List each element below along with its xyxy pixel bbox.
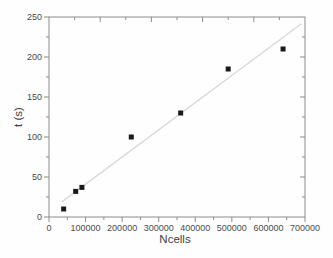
x-tick-label: 300000 xyxy=(144,223,174,233)
x-tick-label: 700000 xyxy=(290,223,320,233)
plot-layer: 0100000200000300000400000500000600000700… xyxy=(27,12,320,233)
y-axis-label: t (s) xyxy=(12,107,24,127)
data-point xyxy=(61,207,66,212)
y-tick-label: 100 xyxy=(27,132,42,142)
data-point xyxy=(129,135,134,140)
x-tick-label: 400000 xyxy=(180,223,210,233)
y-tick-label: 200 xyxy=(27,52,42,62)
scatter-plot: 0100000200000300000400000500000600000700… xyxy=(0,0,333,258)
x-tick-label: 500000 xyxy=(217,223,247,233)
x-tick-label: 100000 xyxy=(71,223,101,233)
y-tick-label: 0 xyxy=(37,212,42,222)
data-point xyxy=(178,111,183,116)
x-axis-label: Ncells xyxy=(159,233,191,245)
data-point xyxy=(73,189,78,194)
x-tick-label: 600000 xyxy=(253,223,283,233)
data-point xyxy=(79,185,84,190)
y-tick-label: 250 xyxy=(27,12,42,22)
x-tick-label: 200000 xyxy=(107,223,137,233)
y-tick-label: 50 xyxy=(32,172,42,182)
x-tick-label: 0 xyxy=(46,223,51,233)
data-point xyxy=(226,67,231,72)
data-point xyxy=(281,47,286,52)
y-tick-label: 150 xyxy=(27,92,42,102)
chart-figure: 0100000200000300000400000500000600000700… xyxy=(0,0,333,258)
